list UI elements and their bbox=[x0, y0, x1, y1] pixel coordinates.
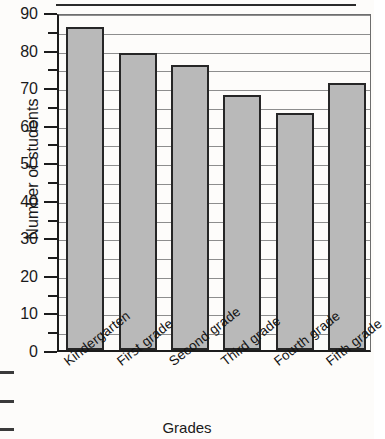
y-axis-tick-label: 40 bbox=[4, 194, 38, 210]
y-axis-tick-label: 10 bbox=[4, 306, 38, 322]
y-axis-major-tick bbox=[44, 88, 57, 90]
scan-artifact-top-rule bbox=[56, 4, 356, 6]
gridline bbox=[59, 240, 370, 241]
gridline bbox=[59, 71, 370, 72]
x-axis-title: Grades bbox=[0, 419, 374, 436]
scan-artifact-dash bbox=[0, 400, 14, 403]
y-axis-tick-label: 90 bbox=[4, 6, 38, 22]
gridline bbox=[59, 184, 370, 185]
y-axis-major-tick bbox=[44, 276, 57, 278]
y-axis-minor-tick bbox=[48, 32, 57, 34]
gridline bbox=[59, 128, 370, 129]
gridline bbox=[59, 259, 370, 260]
y-axis-minor-tick bbox=[48, 144, 57, 146]
y-axis-minor-tick bbox=[48, 332, 57, 334]
y-axis-major-tick bbox=[44, 51, 57, 53]
gridline bbox=[59, 109, 370, 110]
y-axis-tick-label: 70 bbox=[4, 81, 38, 97]
y-axis-major-tick bbox=[44, 126, 57, 128]
gridline bbox=[59, 53, 370, 54]
y-axis-minor-tick bbox=[48, 182, 57, 184]
bar bbox=[66, 27, 104, 350]
y-axis-minor-tick bbox=[48, 69, 57, 71]
gridline bbox=[59, 15, 370, 16]
y-axis-major-tick bbox=[44, 238, 57, 240]
gridline bbox=[59, 297, 370, 298]
y-axis-minor-tick bbox=[48, 107, 57, 109]
scan-artifact-dash bbox=[0, 371, 14, 374]
y-axis-minor-tick bbox=[48, 295, 57, 297]
gridline bbox=[59, 203, 370, 204]
gridline bbox=[59, 34, 370, 35]
plot-area bbox=[57, 14, 371, 352]
gridline bbox=[59, 278, 370, 279]
y-axis-minor-tick bbox=[48, 220, 57, 222]
y-axis-major-tick bbox=[44, 163, 57, 165]
y-axis-tick-label: 20 bbox=[4, 269, 38, 285]
bar bbox=[171, 65, 209, 350]
bar bbox=[276, 113, 314, 350]
y-axis-minor-tick bbox=[48, 257, 57, 259]
bar bbox=[119, 53, 157, 350]
y-axis-tick-label: 30 bbox=[4, 231, 38, 247]
gridline bbox=[59, 222, 370, 223]
y-axis-tick-label: 80 bbox=[4, 44, 38, 60]
gridline bbox=[59, 90, 370, 91]
y-axis-major-tick bbox=[44, 313, 57, 315]
y-axis-tick-label: 0 bbox=[4, 344, 38, 360]
y-axis-tick-label: 50 bbox=[4, 156, 38, 172]
y-axis-major-tick bbox=[44, 201, 57, 203]
y-axis-major-tick bbox=[44, 351, 57, 353]
gridline bbox=[59, 165, 370, 166]
gridline bbox=[59, 146, 370, 147]
y-axis-tick-label: 60 bbox=[4, 119, 38, 135]
y-axis-major-tick bbox=[44, 13, 57, 15]
